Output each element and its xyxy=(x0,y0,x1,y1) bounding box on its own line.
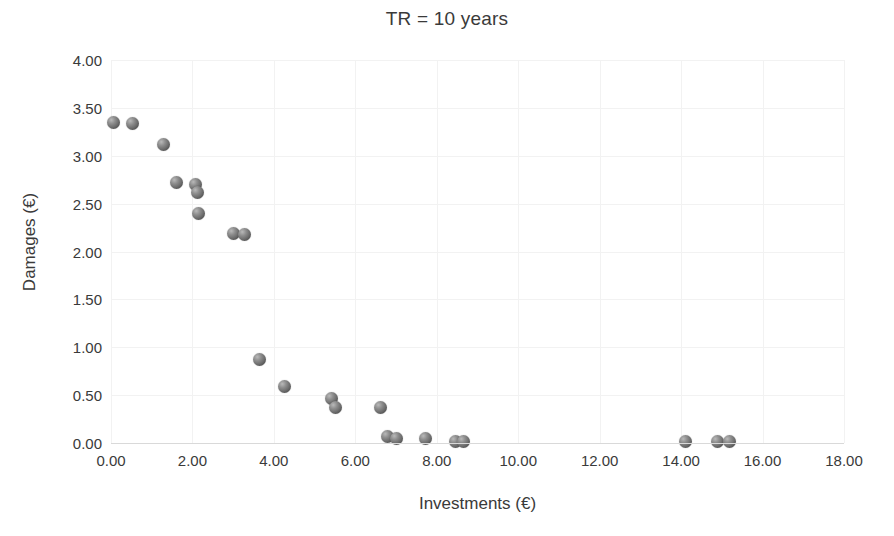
x-axis-tick-label: 12.00 xyxy=(560,452,640,469)
gridline-horizontal xyxy=(111,108,844,109)
data-point xyxy=(170,176,183,189)
x-axis-tick-labels: 0.002.004.006.008.0010.0012.0014.0016.00… xyxy=(111,452,844,476)
x-axis-tick-label: 4.00 xyxy=(234,452,314,469)
gridline-vertical xyxy=(192,60,193,443)
gridline-horizontal xyxy=(111,299,844,300)
x-axis-tick-label: 0.00 xyxy=(71,452,151,469)
x-axis-line xyxy=(111,443,844,444)
x-axis-tick-label: 14.00 xyxy=(641,452,721,469)
x-axis-tick-label: 8.00 xyxy=(397,452,477,469)
gridline-vertical xyxy=(355,60,356,443)
gridline-horizontal xyxy=(111,204,844,205)
x-axis-tick-label: 6.00 xyxy=(315,452,395,469)
data-point xyxy=(723,435,736,448)
data-point xyxy=(711,435,724,448)
data-point xyxy=(329,401,342,414)
data-point xyxy=(238,228,251,241)
gridline-horizontal xyxy=(111,60,844,61)
data-point xyxy=(126,117,139,130)
gridline-vertical xyxy=(437,60,438,443)
y-axis-tick-label: 3.50 xyxy=(46,99,102,116)
x-axis-tick-label: 2.00 xyxy=(152,452,232,469)
y-axis-tick-label: 0.00 xyxy=(46,435,102,452)
data-point xyxy=(679,435,692,448)
chart-title: TR = 10 years xyxy=(0,8,894,30)
y-axis-tick-label: 0.50 xyxy=(46,387,102,404)
data-point xyxy=(107,116,120,129)
data-point xyxy=(253,353,266,366)
x-axis-tick-label: 10.00 xyxy=(478,452,558,469)
gridline-vertical xyxy=(274,60,275,443)
gridline-vertical xyxy=(844,60,845,443)
x-axis-tick-label: 18.00 xyxy=(804,452,884,469)
gridline-horizontal xyxy=(111,156,844,157)
data-point xyxy=(278,380,291,393)
gridline-vertical xyxy=(600,60,601,443)
data-point xyxy=(192,207,205,220)
gridline-vertical xyxy=(763,60,764,443)
y-axis-tick-label: 1.50 xyxy=(46,291,102,308)
data-point xyxy=(191,186,204,199)
scatter-chart-figure: TR = 10 years 0.000.501.001.502.002.503.… xyxy=(0,0,894,536)
data-point xyxy=(457,435,470,448)
y-axis-tick-label: 2.50 xyxy=(46,195,102,212)
gridline-horizontal xyxy=(111,252,844,253)
y-axis-tick-label: 1.00 xyxy=(46,339,102,356)
y-axis-tick-label: 2.00 xyxy=(46,243,102,260)
y-axis-tick-label: 3.00 xyxy=(46,147,102,164)
gridline-horizontal xyxy=(111,395,844,396)
plot-area xyxy=(111,60,844,443)
gridline-vertical xyxy=(681,60,682,443)
gridline-horizontal xyxy=(111,347,844,348)
x-axis-title: Investments (€) xyxy=(111,494,844,514)
gridline-vertical xyxy=(518,60,519,443)
y-axis-title: Damages (€) xyxy=(20,142,40,342)
x-axis-tick-label: 16.00 xyxy=(723,452,803,469)
data-point xyxy=(374,401,387,414)
y-axis-tick-label: 4.00 xyxy=(46,52,102,69)
data-point xyxy=(157,138,170,151)
